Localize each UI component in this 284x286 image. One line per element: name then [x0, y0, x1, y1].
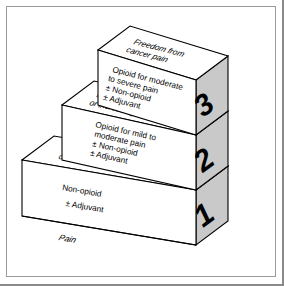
baseline-label-group: Pain	[57, 232, 78, 244]
analgesic-ladder-figure: Pain persisting or increasing Non-opioid…	[0, 0, 284, 286]
ladder-drawing: Pain persisting or increasing Non-opioid…	[0, 0, 284, 286]
baseline-label: Pain	[57, 232, 78, 244]
